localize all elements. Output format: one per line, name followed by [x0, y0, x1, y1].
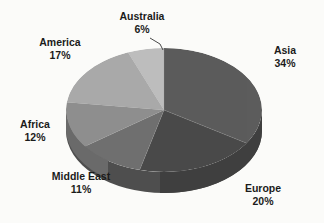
pie-label-africa: Africa 12%: [4, 118, 66, 145]
pie-label-asia-pct: 34%: [258, 57, 312, 70]
pie-label-europe: Europe 20%: [232, 182, 294, 209]
pie-top-face: [66, 48, 262, 172]
pie-label-europe-pct: 20%: [232, 195, 294, 208]
pie-label-europe-name: Europe: [245, 182, 281, 194]
pie-label-america-name: America: [39, 36, 80, 48]
pie-label-middle-east-name: Middle East: [52, 170, 110, 182]
pie-label-america: America 17%: [24, 36, 96, 63]
pie-label-australia-pct: 6%: [106, 23, 178, 36]
pie-label-asia-name: Asia: [274, 44, 296, 56]
pie-chart-figure: Australia 6% America 17% Africa 12% Midd…: [0, 0, 324, 223]
pie-label-asia: Asia 34%: [258, 44, 312, 71]
pie-label-australia-name: Australia: [120, 10, 165, 22]
pie-label-australia: Australia 6%: [106, 10, 178, 37]
pie-label-africa-pct: 12%: [4, 131, 66, 144]
pie-label-africa-name: Africa: [20, 118, 50, 130]
pie-label-middle-east: Middle East 11%: [36, 170, 126, 197]
pie-label-middle-east-pct: 11%: [36, 183, 126, 196]
pie-label-america-pct: 17%: [24, 49, 96, 62]
